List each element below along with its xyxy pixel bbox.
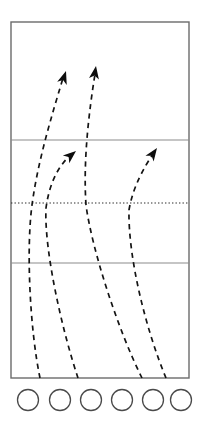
player-position-2[interactable]	[50, 390, 71, 411]
player-position-6[interactable]	[171, 390, 192, 411]
court-diagram-canvas	[0, 0, 200, 422]
court-outline	[11, 22, 189, 378]
player-position-1[interactable]	[18, 390, 39, 411]
player-position-3[interactable]	[81, 390, 102, 411]
court-diagram	[0, 0, 200, 422]
player-position-4[interactable]	[112, 390, 133, 411]
player-position-5[interactable]	[143, 390, 164, 411]
player-positions	[18, 390, 192, 411]
